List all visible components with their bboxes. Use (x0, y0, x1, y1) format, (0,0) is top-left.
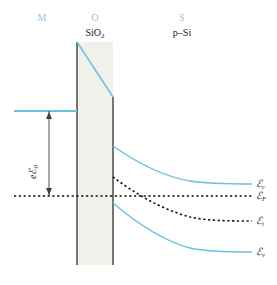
material-label-oxide-text: SiO (85, 27, 101, 38)
energy-label-intrinsic-level: ℰi (256, 215, 264, 226)
energy-label-valence-band-subscript: v (262, 251, 265, 258)
built-in-potential-label-text: eℰ (27, 169, 38, 179)
region-label-semiconductor: S (172, 12, 192, 23)
oxide-slab (77, 42, 113, 265)
material-label-oxide-subscript: 2 (101, 32, 105, 40)
energy-label-conduction-band-subscript: c (262, 183, 265, 190)
region-label-oxide: O (85, 12, 105, 23)
valence-band-curve (113, 203, 252, 252)
conduction-band-curve (113, 146, 252, 184)
energy-label-intrinsic-level-subscript: i (262, 220, 264, 227)
energy-label-conduction-band: ℰc (256, 178, 265, 189)
energy-label-fermi-level: ℰF (256, 190, 266, 201)
material-label-semiconductor: p–Si (161, 27, 203, 38)
mos-band-diagram-figure: M O S SiO2 p–Si ℰc ℰF ℰi ℰv eℰ0 (0, 0, 277, 285)
built-in-potential-label: eℰ0 (27, 165, 38, 179)
energy-label-valence-band: ℰv (256, 246, 265, 257)
band-diagram-canvas (0, 0, 277, 285)
energy-label-fermi-level-subscript: F (262, 195, 266, 202)
built-in-potential-arrow (46, 111, 52, 196)
built-in-potential-label-subscript: 0 (32, 165, 39, 168)
material-label-semiconductor-text: p–Si (173, 27, 191, 38)
material-label-oxide: SiO2 (74, 27, 116, 38)
region-label-metal: M (32, 12, 52, 23)
